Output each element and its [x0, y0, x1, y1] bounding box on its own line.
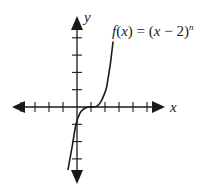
title-equals: = (: [133, 23, 154, 40]
x-axis-left-arrow-icon: [12, 101, 25, 113]
title-minus-two: − 2): [160, 23, 188, 40]
y-axis-up-arrow-icon: [71, 16, 83, 30]
x-axis-label: x: [169, 99, 177, 115]
function-graph: x y f(x) = (x − 2)n: [0, 0, 213, 194]
title-exponent: n: [189, 22, 194, 32]
x-axis-right-arrow-icon: [152, 101, 165, 113]
y-axis-down-arrow-icon: [71, 170, 83, 184]
y-axis-label: y: [82, 9, 91, 25]
function-label: f(x) = (x − 2)n: [112, 22, 194, 40]
axes: [12, 16, 165, 184]
